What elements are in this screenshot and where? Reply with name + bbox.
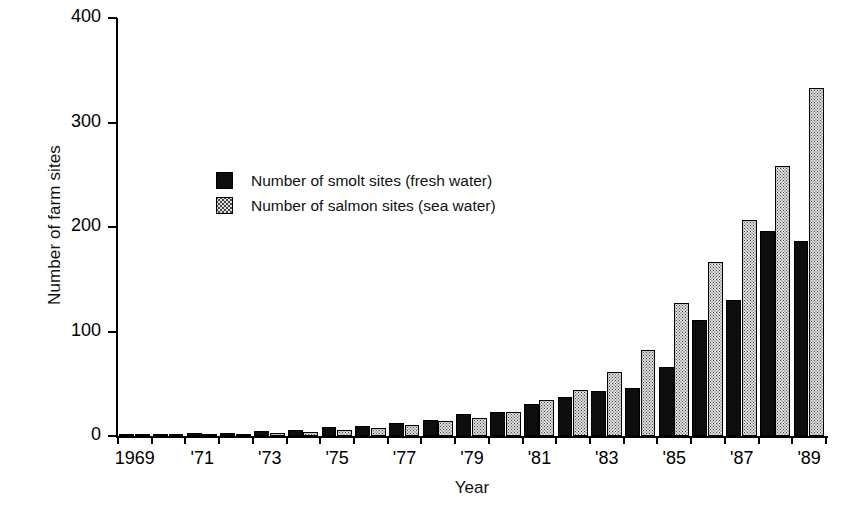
y-axis-tick-label: 100 [71, 320, 101, 340]
plot-area [118, 18, 826, 436]
bar-salmon-89 [809, 88, 824, 436]
x-axis-tick-label: '81 [528, 447, 551, 469]
bar-smolt-82 [558, 397, 573, 436]
x-axis-tick-label: '85 [663, 447, 686, 469]
x-axis-tick [825, 437, 827, 444]
bar-smolt-84 [625, 388, 640, 436]
x-axis-tick [791, 437, 793, 444]
x-axis-tick [589, 437, 591, 444]
x-axis-tick [387, 437, 389, 444]
bar-smolt-1969 [119, 434, 134, 436]
x-axis-tick [555, 437, 557, 444]
x-axis-tick [151, 437, 153, 444]
bar-smolt-76 [355, 426, 370, 436]
bar-smolt-70 [153, 434, 168, 436]
bar-salmon-84 [641, 350, 656, 436]
bar-smolt-74 [288, 430, 303, 436]
chart-legend: Number of smolt sites (fresh water) Numb… [216, 168, 496, 218]
x-axis-tick [286, 437, 288, 444]
bar-salmon-83 [607, 372, 622, 436]
legend-label-salmon: Number of salmon sites (sea water) [251, 197, 496, 215]
bar-salmon-86 [708, 262, 723, 437]
y-axis-tick-label: 400 [71, 6, 101, 26]
bar-salmon-1969 [135, 434, 150, 436]
y-axis-tick-label: 300 [71, 111, 101, 131]
x-axis-tick [690, 437, 692, 444]
legend-swatch-salmon-icon [216, 197, 233, 214]
legend-swatch-smolt-icon [216, 172, 233, 189]
x-axis-tick [184, 437, 186, 444]
bar-salmon-75 [337, 430, 352, 436]
bar-salmon-74 [303, 432, 318, 436]
y-axis-tick: 300 [108, 122, 117, 124]
x-axis-tick [353, 437, 355, 444]
x-axis-tick [319, 437, 321, 444]
y-axis-tick-label: 0 [91, 424, 101, 444]
x-axis-tick-label: '89 [797, 447, 820, 469]
bar-smolt-89 [794, 241, 809, 436]
bar-smolt-83 [591, 391, 606, 436]
x-axis-tick [117, 437, 119, 444]
bar-smolt-87 [726, 300, 741, 436]
bar-salmon-88 [775, 166, 790, 436]
bar-salmon-77 [405, 425, 420, 436]
bar-salmon-85 [674, 303, 689, 436]
x-axis-tick [252, 437, 254, 444]
bar-smolt-73 [254, 431, 269, 436]
bar-salmon-87 [742, 220, 757, 436]
bar-smolt-71 [187, 433, 202, 436]
bar-smolt-78 [423, 420, 438, 436]
y-axis-tick: 400 [108, 17, 117, 19]
bar-smolt-75 [322, 427, 337, 436]
bar-salmon-71 [202, 434, 217, 436]
x-axis-tick-label: '87 [730, 447, 753, 469]
x-axis-title: Year [118, 478, 826, 498]
bar-salmon-79 [472, 418, 487, 436]
bar-smolt-77 [389, 423, 404, 436]
legend-item-smolt: Number of smolt sites (fresh water) [216, 168, 496, 193]
legend-item-salmon: Number of salmon sites (sea water) [216, 193, 496, 218]
x-axis-tick-label: '79 [460, 447, 483, 469]
x-axis-tick [454, 437, 456, 444]
y-axis-title: Number of farm sites [45, 75, 65, 375]
x-axis-tick [623, 437, 625, 444]
x-axis-tick-label: '71 [191, 447, 214, 469]
y-axis-tick: 200 [108, 226, 117, 228]
x-axis-tick-label: '75 [325, 447, 348, 469]
x-axis-tick [420, 437, 422, 444]
bar-salmon-73 [270, 433, 285, 436]
bar-salmon-80 [506, 412, 521, 436]
bar-smolt-86 [692, 320, 707, 436]
x-axis-tick [724, 437, 726, 444]
x-axis-tick-label: 1969 [115, 447, 155, 469]
y-axis-tick: 100 [108, 331, 117, 333]
x-axis-tick [656, 437, 658, 444]
y-axis-tick-label: 200 [71, 215, 101, 235]
bar-salmon-81 [539, 400, 554, 436]
x-axis-tick [758, 437, 760, 444]
x-axis-line [116, 436, 828, 438]
bar-smolt-88 [760, 231, 775, 436]
bar-smolt-72 [220, 433, 235, 436]
y-axis-tick: 0 [108, 435, 117, 437]
bar-salmon-72 [236, 434, 251, 436]
bar-salmon-82 [573, 390, 588, 436]
x-axis-tick-label: '73 [258, 447, 281, 469]
x-axis-tick-label: '83 [595, 447, 618, 469]
x-axis-tick [522, 437, 524, 444]
bar-salmon-78 [438, 421, 453, 436]
bar-salmon-70 [169, 434, 184, 436]
legend-label-smolt: Number of smolt sites (fresh water) [251, 172, 492, 190]
bar-smolt-80 [490, 412, 505, 436]
x-axis-tick [218, 437, 220, 444]
bar-chart-figure: Number of farm sites Year 0100200300400 … [0, 0, 848, 512]
bar-smolt-85 [659, 367, 674, 436]
x-axis-tick-label: '77 [393, 447, 416, 469]
x-axis-tick [488, 437, 490, 444]
bar-smolt-81 [524, 404, 539, 436]
bar-smolt-79 [456, 414, 471, 436]
bar-salmon-76 [371, 428, 386, 436]
